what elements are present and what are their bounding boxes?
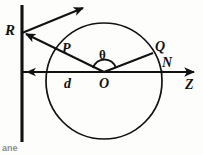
label-Z: Z <box>185 78 194 92</box>
label-d: d <box>64 77 71 91</box>
reflected-ray-from-r <box>22 8 83 33</box>
label-N: N <box>162 56 172 70</box>
label-Q: Q <box>155 40 165 54</box>
caption-remnant: ane <box>2 144 18 151</box>
label-O: O <box>99 77 109 91</box>
label-theta: θ <box>99 48 106 61</box>
optics-ray-diagram: R P Q N O d Z θ ane <box>0 0 203 155</box>
label-P: P <box>62 42 71 56</box>
point-n-marker <box>161 71 164 74</box>
label-R: R <box>5 23 15 38</box>
